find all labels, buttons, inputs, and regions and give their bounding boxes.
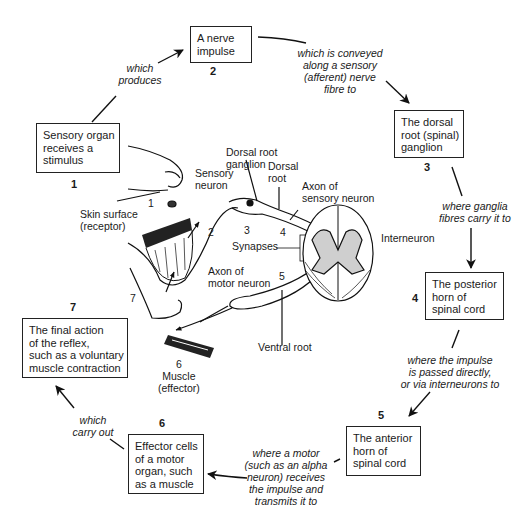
step-6-line: of a motor — [135, 453, 197, 466]
connector-1-2: which produces — [110, 62, 170, 86]
label-line: Axon of — [302, 180, 374, 192]
step-3-line: The dorsal — [401, 116, 457, 129]
arrow-6-7-tail — [110, 439, 124, 449]
step-6-line: Effector cells — [135, 440, 197, 453]
step-1-line: stimulus — [43, 154, 113, 167]
connector-line: or via interneurons to — [400, 378, 500, 390]
step-box-7: The final action of the reflex, such as … — [22, 318, 128, 378]
connector-line: produces — [110, 74, 170, 86]
label-sensory-neuron: Sensory neuron — [195, 167, 234, 191]
step-7-line: such as a voluntary — [29, 349, 121, 362]
path-number-7: 7 — [130, 292, 136, 304]
label-line: (receptor) — [80, 220, 138, 232]
connector-line: where ganglia — [430, 200, 520, 212]
label-interneuron: Interneuron — [381, 232, 435, 244]
connector-line: transmits it to — [244, 495, 328, 507]
step-1-line: receives a — [43, 142, 113, 155]
step-5-line: horn of — [353, 445, 414, 458]
step-5-line: The anterior — [353, 432, 414, 445]
label-line: Axon of — [208, 265, 270, 277]
cycle-arrows — [56, 37, 471, 478]
connector-5-6: where a motor (such as an alpha neuron) … — [244, 447, 328, 507]
arrow-5-6 — [208, 474, 247, 478]
step-number-2: 2 — [210, 65, 216, 77]
label-axon-sensory-neuron: Axon of sensory neuron — [302, 180, 374, 204]
connector-line: where the impulse — [400, 354, 500, 366]
path-number-6: 6 — [158, 358, 200, 370]
arrow-1-2-tail — [92, 96, 116, 122]
step-number-3: 3 — [424, 161, 430, 173]
label-line: Dorsal root — [226, 146, 277, 158]
connector-line: which is conveyed — [290, 47, 390, 59]
step-box-4: The posterior horn of spinal cord — [425, 272, 504, 320]
label-skin-surface: Skin surface (receptor) — [80, 208, 138, 232]
label-axon-motor-neuron: Axon of motor neuron — [208, 265, 270, 289]
label-synapses: Synapses — [232, 240, 278, 252]
step-box-6: Effector cells of a motor organ, such as… — [128, 434, 204, 494]
connector-line: the impulse and — [244, 483, 328, 495]
arrow-2-3-tail — [258, 37, 306, 43]
step-4-line: horn of — [432, 291, 497, 304]
arrow-4-5-tail — [452, 330, 459, 348]
path-number-3: 3 — [244, 224, 250, 236]
connector-line: (afferent) nerve — [290, 71, 390, 83]
connector-line: is passed directly, — [400, 366, 500, 378]
connector-line: carry out — [68, 426, 118, 438]
connector-line: which — [68, 414, 118, 426]
path-number-4: 4 — [280, 226, 286, 238]
step-6-line: organ, such — [135, 465, 197, 478]
connector-line: which — [110, 62, 170, 74]
step-7-line: of the reflex, — [29, 337, 121, 350]
label-line: motor neuron — [208, 277, 270, 289]
connector-2-3: which is conveyed along a sensory (affer… — [290, 47, 390, 95]
step-1-line: Sensory organ — [43, 129, 113, 142]
step-4-line: The posterior — [432, 278, 497, 291]
label-line: Dorsal — [268, 160, 298, 172]
path-number-1: 1 — [148, 197, 154, 209]
connector-line: along a sensory — [290, 59, 390, 71]
skin-receptor-illustration — [142, 218, 193, 281]
connector-line: where a motor — [244, 447, 328, 459]
step-3-line: root (spinal) — [401, 129, 457, 142]
connector-6-7: which carry out — [68, 414, 118, 438]
connector-line: neuron) receives — [244, 471, 328, 483]
arrow-3-4-tail — [452, 167, 462, 196]
label-line: Muscle — [158, 370, 200, 382]
step-number-6: 6 — [159, 417, 165, 429]
step-number-7: 7 — [70, 301, 76, 313]
step-4-line: spinal cord — [432, 303, 497, 316]
step-7-line: muscle contraction — [29, 362, 121, 375]
step-7-line: The final action — [29, 324, 121, 337]
step-5-line: spinal cord — [353, 457, 414, 470]
step-6-line: as a muscle — [135, 478, 197, 491]
arrow-5-6-tail — [334, 459, 340, 462]
step-box-2: A nerve impulse — [190, 26, 252, 63]
path-number-5: 5 — [279, 270, 285, 282]
path-number-2: 2 — [208, 226, 214, 238]
step-box-3: The dorsal root (spinal) ganglion — [394, 110, 464, 158]
connector-line: fibre to — [290, 83, 390, 95]
connector-line: fibres carry it to — [430, 212, 520, 224]
label-line: neuron — [195, 179, 234, 191]
label-line: sensory neuron — [302, 192, 374, 204]
connector-3-4: where ganglia fibres carry it to — [430, 200, 520, 224]
step-3-line: ganglion — [401, 141, 457, 154]
spinal-cord-illustration — [303, 205, 373, 301]
label-line: Skin surface — [80, 208, 138, 220]
muscle-illustration — [164, 335, 214, 358]
step-number-5: 5 — [378, 409, 384, 421]
label-line: Sensory — [195, 167, 234, 179]
label-line: (effector) — [158, 382, 200, 394]
step-2-line: impulse — [197, 45, 245, 58]
label-ventral-root: Ventral root — [258, 341, 312, 353]
diagram-graphics — [0, 0, 531, 524]
arrow-6-7 — [56, 386, 74, 408]
step-2-line: A nerve — [197, 32, 245, 45]
label-muscle-effector: 6 Muscle (effector) — [158, 358, 200, 394]
step-box-1: Sensory organ receives a stimulus — [36, 123, 120, 173]
connector-line: (such as an alpha — [244, 459, 328, 471]
label-line: root — [268, 172, 298, 184]
label-dorsal-root: Dorsal root — [268, 160, 298, 184]
arrow-4-5 — [409, 392, 430, 416]
step-box-5: The anterior horn of spinal cord — [346, 426, 421, 476]
